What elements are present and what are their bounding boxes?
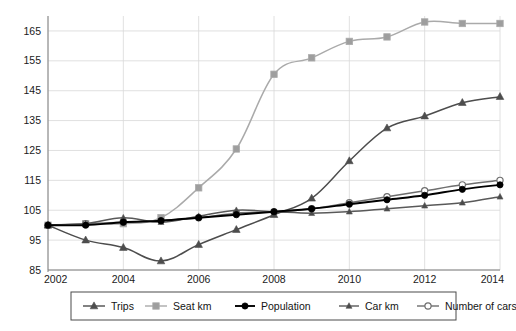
data-point-marker xyxy=(271,209,277,215)
x-tick-label: 2010 xyxy=(338,273,362,285)
data-point-marker xyxy=(233,146,239,152)
data-point-marker xyxy=(45,222,51,228)
x-tick-label: 2008 xyxy=(262,273,286,285)
legend-label: Trips xyxy=(111,300,134,312)
grid-lines xyxy=(48,16,500,270)
data-point-marker xyxy=(271,71,277,77)
data-point-marker xyxy=(384,197,390,203)
y-tick-label: 165 xyxy=(23,25,41,37)
data-point-marker xyxy=(233,212,239,218)
legend-label: Population xyxy=(261,300,311,312)
y-tick-label: 145 xyxy=(23,84,41,96)
data-point-marker xyxy=(153,303,159,309)
data-point-marker xyxy=(384,34,390,40)
data-point-marker xyxy=(195,185,201,191)
data-point-marker xyxy=(242,303,248,309)
y-tick-label: 135 xyxy=(23,114,41,126)
data-point-marker xyxy=(459,20,465,26)
data-point-marker xyxy=(497,182,503,188)
data-point-marker xyxy=(346,38,352,44)
data-point-marker xyxy=(421,19,427,25)
x-tick-label: 2012 xyxy=(413,273,437,285)
data-point-marker xyxy=(308,55,314,61)
y-axis-tick-labels: 8595105115125135145155165 xyxy=(23,25,41,276)
legend-label: Car km xyxy=(365,300,399,312)
data-point-marker xyxy=(425,303,431,309)
chart-legend: TripsSeat kmPopulationCar kmNumber of ca… xyxy=(71,292,516,320)
x-tick-label: 2004 xyxy=(112,273,136,285)
y-tick-label: 155 xyxy=(23,54,41,66)
data-point-marker xyxy=(308,194,316,201)
data-point-marker xyxy=(497,20,503,26)
y-tick-label: 85 xyxy=(29,264,41,276)
data-point-marker xyxy=(158,218,164,224)
x-tick-label: 2014 xyxy=(481,273,505,285)
y-tick-label: 125 xyxy=(23,144,41,156)
data-point-marker xyxy=(120,219,126,225)
x-axis-tick-labels: 2002200420062008201020122014 xyxy=(44,273,504,285)
legend-label: Seat km xyxy=(173,300,212,312)
chart-canvas: 8595105115125135145155165 20022004200620… xyxy=(0,0,516,331)
data-point-marker xyxy=(309,206,315,212)
line-chart: 8595105115125135145155165 20022004200620… xyxy=(0,0,516,331)
x-tick-label: 2006 xyxy=(187,273,211,285)
y-tick-label: 105 xyxy=(23,204,41,216)
data-point-marker xyxy=(459,186,465,192)
y-tick-label: 115 xyxy=(24,174,41,186)
data-point-marker xyxy=(497,193,503,199)
x-tick-label: 2002 xyxy=(44,273,68,285)
data-point-marker xyxy=(496,93,504,100)
data-point-marker xyxy=(83,222,89,228)
data-point-marker xyxy=(346,201,352,207)
legend-label: Number of cars xyxy=(445,300,516,312)
data-point-marker xyxy=(196,215,202,221)
y-tick-label: 95 xyxy=(29,234,41,246)
data-point-marker xyxy=(422,192,428,198)
